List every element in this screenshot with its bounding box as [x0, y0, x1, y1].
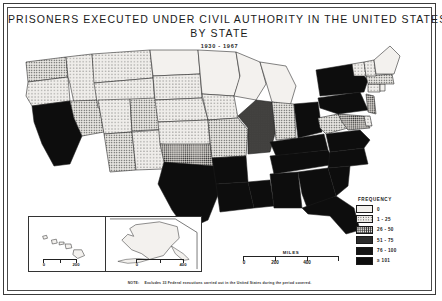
state-minnesota — [198, 50, 240, 96]
hawaii-scale-number-0: 0 — [43, 262, 45, 267]
state-nebraska — [155, 98, 208, 122]
hawaii-island-molokai — [59, 242, 64, 245]
legend-item-1: 1 - 25 — [356, 215, 418, 224]
hawaii-island-hawaii — [73, 250, 85, 259]
legend-label-4: 76 - 100 — [377, 248, 397, 253]
state-montana — [92, 50, 153, 83]
state-arizona — [104, 132, 136, 172]
state-north-dakota — [150, 50, 200, 76]
footnote: NOTE:Excludes 33 Federal executions carr… — [8, 281, 431, 285]
state-vermont — [352, 62, 366, 76]
hawaii-scale-number-1: 200 — [73, 262, 80, 267]
legend-item-4: 76 - 100 — [356, 246, 418, 255]
legend-item-0: 0 — [356, 205, 418, 214]
state-louisiana — [216, 182, 254, 212]
state-new-jersey — [366, 94, 376, 114]
alaska-scale-number-0: 0 — [136, 262, 138, 267]
legend-label-5: ≥ 101 — [377, 258, 390, 263]
legend-label-0: 0 — [377, 207, 380, 212]
scale-units-label: MILES — [243, 250, 339, 255]
legend-item-5: ≥ 101 — [356, 256, 418, 265]
state-iowa — [202, 94, 238, 120]
state-connecticut — [368, 84, 380, 92]
footnote-text: Excludes 33 Federal executions carried o… — [144, 281, 311, 285]
state-south-dakota — [153, 74, 202, 100]
scale-tick-3 — [338, 256, 339, 261]
legend-swatch-3 — [356, 236, 373, 244]
legend-swatch-4 — [356, 247, 373, 255]
state-alabama — [270, 172, 302, 208]
inset-hawaii: 0 200 — [28, 216, 106, 272]
state-missouri — [208, 118, 248, 158]
scale-bar-hawaii: 0 200 — [43, 259, 77, 267]
legend-item-2: 26 - 50 — [356, 225, 418, 234]
state-rhode-island — [380, 84, 385, 91]
page-subtitle: BY STATE — [8, 27, 431, 40]
hawaii-island-maui — [65, 244, 72, 249]
state-utah — [98, 99, 132, 134]
alaska-mainland — [122, 222, 179, 260]
scale-number-0: 0 — [243, 260, 246, 265]
legend-swatch-1 — [356, 215, 373, 223]
state-indiana — [272, 102, 296, 140]
legend-title: FREQUENCY — [356, 197, 418, 202]
legend-swatch-2 — [356, 226, 373, 234]
map-legend: FREQUENCY 0 1 - 25 26 - 50 51 - 75 76 - … — [356, 197, 418, 267]
scale-bar-graphic: 0 200 400 — [243, 256, 339, 265]
state-arkansas — [212, 156, 248, 184]
hawaii-island-oahu — [51, 239, 57, 244]
alaska-scale-number-1: 400 — [180, 262, 187, 267]
legend-label-2: 26 - 50 — [377, 227, 394, 232]
scale-bar-line — [243, 256, 339, 257]
scale-number-2: 400 — [303, 260, 311, 265]
scale-number-1: 200 — [271, 260, 279, 265]
inset-alaska: 0 400 — [106, 216, 202, 272]
page-title: PRISONERS EXECUTED UNDER CIVIL AUTHORITY… — [8, 13, 431, 26]
state-ohio — [294, 102, 322, 138]
hawaii-island-kauai — [43, 235, 48, 239]
footnote-label: NOTE: — [128, 281, 140, 285]
alaska-scale-tick-1 — [160, 259, 161, 263]
hawaii-scale-tick-1 — [60, 259, 61, 263]
legend-label-1: 1 - 25 — [377, 217, 391, 222]
legend-swatch-5 — [356, 257, 373, 265]
legend-item-3: 51 - 75 — [356, 236, 418, 245]
state-maine — [374, 46, 400, 74]
legend-swatch-0 — [356, 205, 373, 213]
legend-label-3: 51 - 75 — [377, 238, 394, 243]
scale-bar-main: MILES 0 200 400 — [243, 250, 339, 265]
state-kansas — [158, 120, 210, 146]
scale-bar-alaska: 0 400 — [136, 259, 184, 267]
